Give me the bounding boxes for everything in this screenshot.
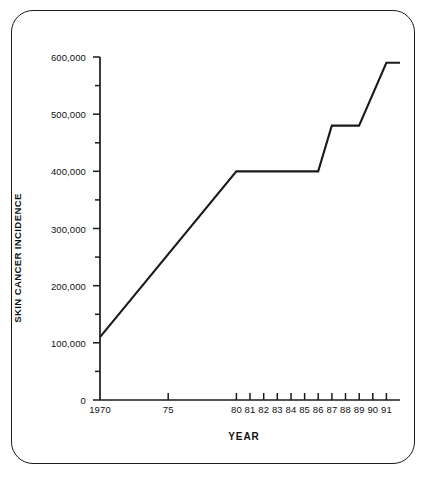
y-tick-label-200000: 200,000 bbox=[36, 280, 86, 291]
chart-figure: 0 100,000 200,000 300,000 400,000 500,00… bbox=[0, 0, 429, 478]
y-tick-label-300000: 300,000 bbox=[36, 223, 86, 234]
chart-plot-area bbox=[0, 0, 429, 478]
x-tick-label-89: 89 bbox=[354, 404, 365, 415]
y-tick-label-600000: 600,000 bbox=[36, 52, 86, 63]
x-tick-label-87: 87 bbox=[327, 404, 338, 415]
x-tick-label-1970: 1970 bbox=[89, 404, 111, 415]
x-tick-label-83: 83 bbox=[272, 404, 283, 415]
y-axis-major-ticks bbox=[93, 57, 100, 400]
y-tick-label-400000: 400,000 bbox=[36, 166, 86, 177]
x-tick-label-85: 85 bbox=[299, 404, 310, 415]
x-tick-label-84: 84 bbox=[286, 404, 297, 415]
x-tick-label-91: 91 bbox=[381, 404, 392, 415]
y-tick-label-500000: 500,000 bbox=[36, 109, 86, 120]
data-series-line bbox=[100, 63, 400, 337]
x-tick-label-75: 75 bbox=[163, 404, 174, 415]
x-tick-label-81: 81 bbox=[245, 404, 256, 415]
y-tick-label-100000: 100,000 bbox=[36, 337, 86, 348]
y-tick-label-0: 0 bbox=[36, 395, 86, 406]
x-axis-title: YEAR bbox=[228, 431, 259, 442]
x-tick-label-90: 90 bbox=[367, 404, 378, 415]
y-axis-title: SKIN CANCER INCIDENCE bbox=[12, 193, 23, 322]
x-tick-label-82: 82 bbox=[258, 404, 269, 415]
x-tick-label-88: 88 bbox=[340, 404, 351, 415]
x-tick-label-80: 80 bbox=[231, 404, 242, 415]
x-tick-label-86: 86 bbox=[313, 404, 324, 415]
x-axis-ticks bbox=[168, 393, 386, 400]
